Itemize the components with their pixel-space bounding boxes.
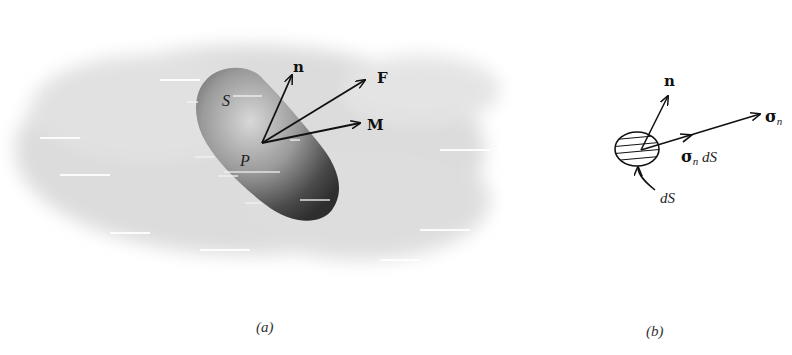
body-label-s: S xyxy=(222,92,230,109)
element-force-ds: dS xyxy=(698,149,717,165)
figure-b: n σn σn dS dS (b) xyxy=(610,72,783,340)
caption-a: (a) xyxy=(256,319,274,336)
area-label-ds: dS xyxy=(660,190,676,206)
normal-label-n-b: n xyxy=(664,72,675,90)
stress-subscript: n xyxy=(777,115,783,127)
caption-b: (b) xyxy=(646,323,664,340)
area-element-ds xyxy=(610,132,665,166)
element-force-label: σn dS xyxy=(681,147,718,167)
vector-label-n: n xyxy=(293,58,304,76)
vector-label-f: F xyxy=(377,69,388,87)
element-force-sigma: σ xyxy=(681,147,693,166)
stress-sigma: σ xyxy=(765,107,777,126)
point-label-p: P xyxy=(239,152,250,169)
figure-canvas: S P n F M (a) n σn xyxy=(0,0,792,355)
figure-a: S P n F M (a) xyxy=(15,30,500,336)
vector-label-m: M xyxy=(367,116,384,134)
stress-label: σn xyxy=(765,107,783,127)
stress-vector-sigma-n xyxy=(641,114,760,150)
ds-pointer xyxy=(638,167,655,190)
